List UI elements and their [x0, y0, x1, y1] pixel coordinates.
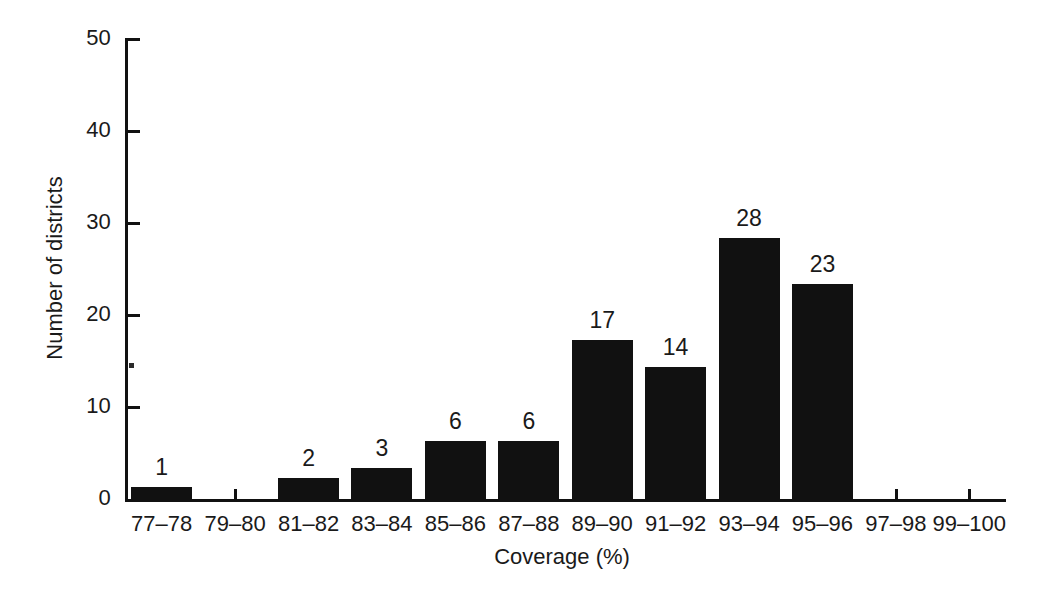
x-axis-line [125, 499, 1006, 502]
bar-value-label: 2 [269, 447, 349, 470]
y-axis-title: Number of districts [43, 138, 67, 398]
bar [131, 487, 192, 499]
y-tick-label-10: 10 [71, 395, 111, 417]
bar [278, 478, 339, 499]
y-tick-10 [128, 406, 140, 409]
x-tick-97–98 [895, 489, 898, 500]
bar-value-label: 6 [415, 410, 495, 433]
x-tick-79–80 [234, 489, 237, 500]
bar [572, 340, 633, 499]
x-tick-label: 99–100 [909, 512, 1029, 536]
bar-value-label: 28 [709, 207, 789, 230]
y-tick-40 [128, 130, 140, 133]
bar-value-label: 17 [562, 309, 642, 332]
bar-value-label: 1 [122, 456, 202, 479]
y-axis-line [125, 38, 128, 502]
y-tick-label-30: 30 [71, 211, 111, 233]
histogram-figure: 01020304050 1236617142823 77–7879–8081–8… [0, 0, 1064, 607]
y-tick-label-0: 0 [71, 487, 111, 509]
x-axis-title: Coverage (%) [0, 545, 1064, 569]
scan-speck [129, 363, 134, 368]
x-axis-title-text: Coverage (%) [494, 545, 630, 569]
y-tick-30 [128, 222, 140, 225]
bar [351, 468, 412, 499]
bar [425, 441, 486, 499]
y-tick-label-40: 40 [71, 119, 111, 141]
bar-value-label: 6 [489, 410, 569, 433]
bar [792, 284, 853, 499]
bar [645, 367, 706, 499]
bar [498, 441, 559, 499]
bar [719, 238, 780, 499]
bar-value-label: 3 [342, 437, 422, 460]
y-tick-label-20: 20 [71, 303, 111, 325]
bar-value-label: 14 [636, 336, 716, 359]
y-tick-label-50: 50 [71, 27, 111, 49]
x-tick-99–100 [968, 489, 971, 500]
y-tick-50 [128, 38, 140, 41]
bar-value-label: 23 [782, 253, 862, 276]
y-tick-20 [128, 314, 140, 317]
